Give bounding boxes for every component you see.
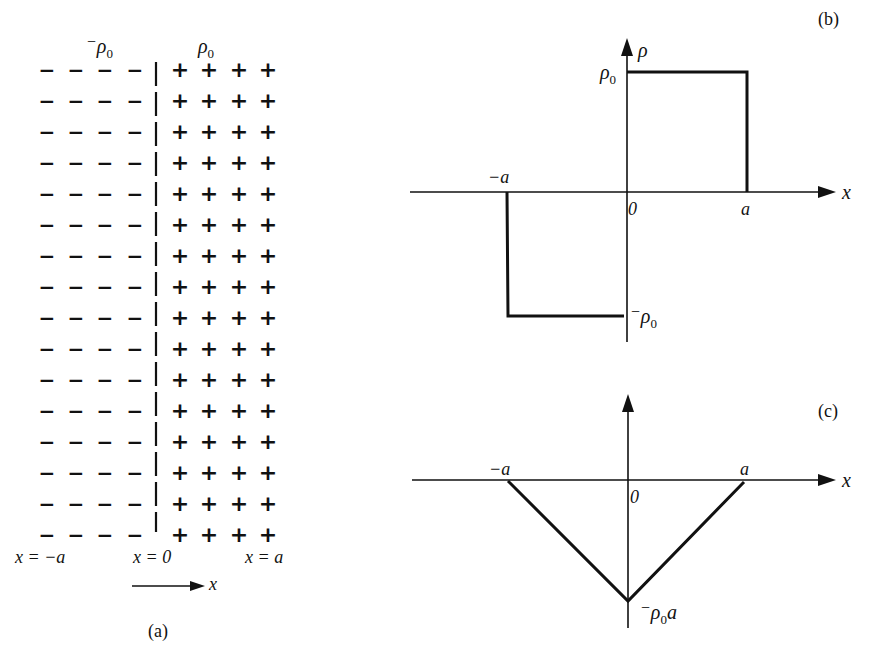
c-x-axis-label: x: [842, 470, 851, 490]
c-tick-a: a: [740, 460, 749, 478]
c-x-arrowhead-icon: [818, 474, 836, 486]
c-tick-min: −ρ0a: [640, 602, 677, 622]
c-tick-zero: 0: [630, 488, 639, 506]
c-v-curve: [508, 481, 744, 601]
panel-c-graph: [0, 0, 876, 662]
caption-c: (c): [818, 402, 838, 420]
c-tick-neg-a: −a: [489, 460, 510, 478]
c-y-arrowhead-icon: [622, 394, 634, 412]
